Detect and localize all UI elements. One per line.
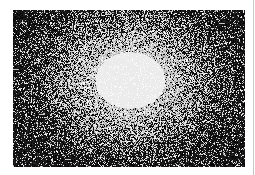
image-frame: Grainy black-and-white noise field with … <box>0 0 255 175</box>
image-description: Grainy black-and-white noise field with … <box>0 0 1 1</box>
right-edge-divider <box>253 0 254 175</box>
noise-glow-image <box>13 10 245 167</box>
